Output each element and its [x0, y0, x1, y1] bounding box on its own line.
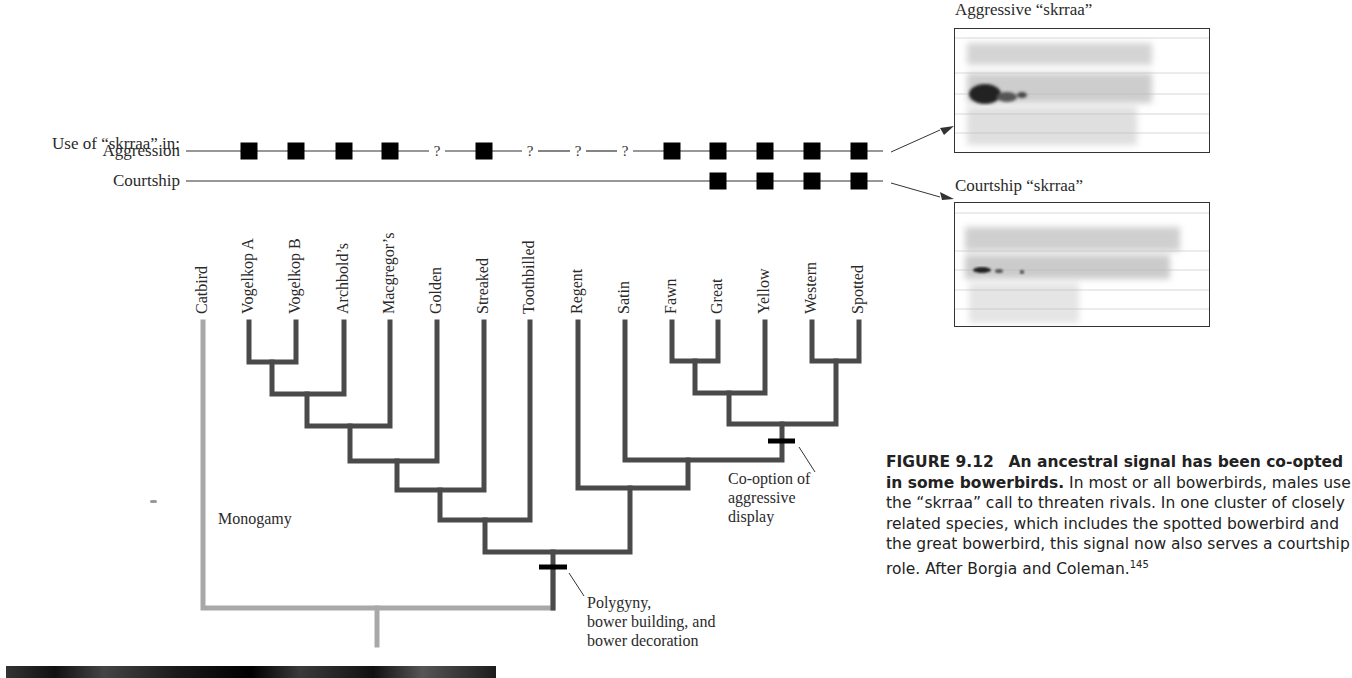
species-label-great: Great — [708, 278, 726, 314]
species-label-golden: Golden — [427, 267, 445, 314]
arrowhead-aggressive-icon — [940, 126, 954, 135]
courtship-spectrogram-title: Courtship “skrraa” — [955, 176, 1083, 196]
species-label-toothbilled: Toothbilled — [520, 240, 538, 314]
species-label-yellow: Yellow — [755, 269, 773, 315]
species-label-fawn: Fawn — [662, 278, 680, 314]
aggressive-spectrogram — [954, 28, 1210, 153]
branch-macgregors — [307, 322, 390, 426]
aggression-unknown-marker: ? — [434, 143, 441, 159]
species-label-catbird: Catbird — [193, 266, 211, 314]
aggression-marker — [288, 143, 305, 160]
cropped-photo-strip — [6, 666, 496, 678]
arrowhead-courtship-icon — [940, 192, 954, 200]
figure-number: FIGURE 9.12 — [886, 453, 994, 471]
aggressive-spectrogram-title: Aggressive “skrraa” — [955, 0, 1092, 20]
courtship-marker — [804, 173, 821, 190]
figure-caption: FIGURE 9.12 An ancestral signal has been… — [886, 452, 1352, 579]
branch-archbolds — [272, 322, 344, 394]
species-label-spotted: Spotted — [849, 265, 867, 314]
aggression-marker — [476, 143, 493, 160]
monogamy-label: Monogamy — [218, 509, 292, 528]
aggressive-spectrogram-image — [955, 29, 1209, 152]
aggression-marker — [710, 143, 727, 160]
polygyny-callout-line — [569, 573, 584, 596]
species-label-archbold-s: Archbold’s — [334, 243, 352, 314]
trait-lines: ???? — [186, 143, 883, 190]
aggression-marker — [757, 143, 774, 160]
branch-fawn-great — [672, 322, 718, 361]
species-label-macgregor-s: Macgregor’s — [380, 233, 398, 314]
branch-golden — [350, 322, 437, 461]
aggression-marker — [336, 143, 353, 160]
stray-mark — [150, 500, 157, 503]
aggression-unknown-marker: ? — [622, 143, 629, 159]
polygyny-annotation: Polygyny, bower building, and bower deco… — [587, 593, 715, 650]
species-label-satin: Satin — [615, 281, 633, 314]
species-label-regent: Regent — [568, 269, 586, 314]
aggression-marker — [804, 143, 821, 160]
courtship-marker — [710, 173, 727, 190]
species-label-vogelkop-b: Vogelkop B — [286, 238, 304, 314]
courtship-spectrogram — [954, 202, 1210, 327]
branch-western-spotted — [812, 322, 859, 361]
branch-vogelkop-pair — [249, 322, 296, 362]
catbird-branch — [203, 322, 553, 608]
cooption-annotation: Co-option of aggressive display — [728, 469, 810, 526]
branch-streaked — [397, 322, 484, 490]
aggression-marker — [851, 143, 868, 160]
species-label-vogelkop-a: Vogelkop A — [239, 238, 257, 314]
courtship-marker — [757, 173, 774, 190]
aggression-marker — [664, 143, 681, 160]
species-label-western: Western — [802, 262, 820, 314]
courtship-spectrogram-image — [955, 203, 1209, 326]
branch-yellow — [695, 322, 765, 393]
aggression-marker — [382, 143, 399, 160]
species-label-streaked: Streaked — [474, 258, 492, 314]
phylogeny-diagram: ???? — [0, 0, 940, 675]
aggression-unknown-marker: ? — [575, 143, 582, 159]
aggression-unknown-marker: ? — [527, 143, 534, 159]
citation-superscript: 145 — [1130, 559, 1149, 570]
courtship-marker — [851, 173, 868, 190]
aggression-marker — [241, 143, 258, 160]
